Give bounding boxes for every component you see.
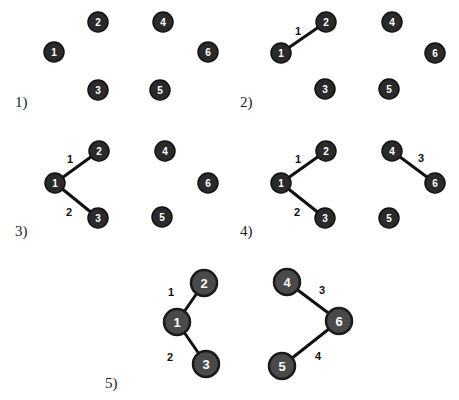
node-label: 4 [283,275,291,290]
edge-weight-label: 1 [168,286,174,298]
node-6: 6 [326,308,352,334]
edge-weight-label: 4 [315,350,322,362]
node-5: 5 [379,79,399,99]
edge-weight-label: 3 [319,284,325,296]
node-6: 6 [198,42,218,62]
node-5: 5 [379,208,399,228]
edge-weight-label: 2 [167,351,173,363]
node-label: 6 [205,178,211,189]
node-label: 2 [95,17,101,28]
node-label: 1 [52,178,58,189]
node-2: 2 [88,12,108,32]
node-label: 5 [157,85,163,96]
node-label: 2 [323,17,329,28]
mst-steps-diagram: 1234561)11234562)121234563)1231234564)12… [0,0,459,400]
node-4: 4 [382,12,402,32]
node-label: 1 [278,178,284,189]
panel-5: 12341234565) [105,269,352,392]
edge-weight-label: 1 [67,153,73,165]
node-4: 4 [155,141,175,161]
node-1: 1 [271,173,291,193]
step-label: 4) [240,223,253,240]
node-label: 2 [323,146,329,157]
node-5: 5 [150,80,170,100]
edge-weight-label: 1 [295,25,301,37]
node-6: 6 [425,173,445,193]
node-3: 3 [88,80,108,100]
node-label: 4 [160,17,166,28]
node-label: 4 [389,146,395,157]
node-6: 6 [198,173,218,193]
node-2: 2 [316,12,336,32]
node-4: 4 [153,12,173,32]
node-label: 1 [278,48,284,59]
node-label: 2 [96,146,102,157]
step-label: 1) [15,94,28,111]
node-label: 6 [205,47,211,58]
node-3: 3 [315,208,335,228]
node-label: 5 [278,359,285,374]
edge-weight-label: 2 [294,206,300,218]
panel-2: 11234562) [240,12,445,111]
node-label: 3 [95,213,101,224]
node-label: 3 [202,357,209,372]
node-label: 6 [335,314,342,329]
node-label: 1 [173,315,180,330]
edge-weight-label: 1 [295,153,301,165]
node-3: 3 [88,208,108,228]
node-1: 1 [271,43,291,63]
node-label: 5 [386,84,392,95]
node-label: 1 [51,47,57,58]
node-label: 5 [159,212,165,223]
step-label: 3) [15,223,28,240]
node-3: 3 [315,79,335,99]
step-label: 2) [240,94,253,111]
panel-1: 1234561) [15,12,218,111]
node-1: 1 [44,42,64,62]
node-label: 4 [389,17,395,28]
node-label: 3 [95,85,101,96]
node-5: 5 [152,207,172,227]
node-2: 2 [191,270,217,296]
edge-weight-label: 2 [66,206,72,218]
node-3: 3 [193,351,219,377]
node-label: 3 [322,84,328,95]
panel-3: 121234563) [15,141,218,240]
node-4: 4 [274,269,300,295]
node-label: 6 [432,48,438,59]
node-6: 6 [425,43,445,63]
step-label: 5) [105,375,118,392]
node-2: 2 [89,141,109,161]
node-2: 2 [316,141,336,161]
node-label: 3 [322,213,328,224]
node-label: 4 [162,146,168,157]
node-5: 5 [269,353,295,379]
node-1: 1 [164,309,190,335]
node-label: 6 [432,178,438,189]
node-label: 5 [386,213,392,224]
edge-weight-label: 3 [418,152,424,164]
panel-4: 1231234564) [240,141,445,240]
node-4: 4 [382,141,402,161]
node-1: 1 [45,173,65,193]
node-label: 2 [200,276,207,291]
